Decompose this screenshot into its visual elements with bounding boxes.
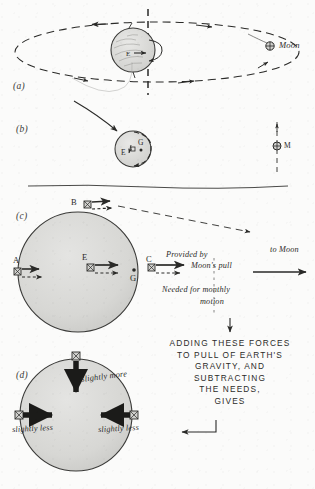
annotation-moons-pull: Moon's pull (191, 261, 232, 270)
earth-globe-c (18, 212, 138, 332)
moon-label-b: M (284, 141, 291, 150)
point-c-label: C (146, 254, 152, 264)
figure-svg: E E G (0, 0, 315, 489)
annotation-needed-for-monthly: Needed for monthly (162, 285, 230, 294)
panel-b-label: (b) (16, 124, 28, 134)
panel-b-earth-label: E (121, 148, 126, 157)
point-a-label: A (13, 255, 19, 265)
point-b-solid-arrow (92, 201, 110, 202)
panel-b-pointer-arrow (74, 101, 117, 131)
panel-d-label: (d) (16, 370, 28, 380)
pole-tick-south (133, 72, 135, 78)
panel-a-group: E (15, 9, 299, 95)
annotation-provided-by: Provided by (166, 250, 208, 259)
annotation-motion: motion (200, 297, 224, 306)
point-b-dashed-arrow (92, 208, 112, 209)
panel-a-earth-label: E (126, 50, 130, 58)
orbit-arrow-right (258, 62, 268, 68)
panel-b-barycenter-dot (140, 149, 143, 152)
point-e-label: E (82, 252, 87, 262)
moon-leader-line-a (248, 34, 267, 43)
point-g-label: G (130, 273, 136, 283)
panel-b-barycenter-label: G (138, 138, 144, 147)
panel-c-label: (c) (16, 211, 27, 221)
orbit-arrow-top-right (196, 25, 212, 27)
section-divider (28, 185, 288, 188)
center-instruction-text: ADDING THESE FORCES TO PULL OF EARTH'S G… (150, 338, 310, 407)
panel-c-group (14, 201, 306, 332)
center-text-to-panel-d-arrow (182, 420, 216, 432)
panel-b-group: E G (74, 101, 281, 172)
point-b-label: B (71, 197, 77, 207)
moon-orbit-ellipse (15, 22, 299, 82)
point-g-dot (132, 268, 136, 272)
line-of-sight-to-moon (118, 206, 250, 232)
figure-canvas: E E G (0, 0, 315, 489)
pole-tick-north (129, 23, 132, 28)
moon-label-a: Moon (279, 40, 300, 50)
to-moon-label: to Moon (270, 245, 299, 254)
panel-a-label: (a) (13, 81, 25, 91)
